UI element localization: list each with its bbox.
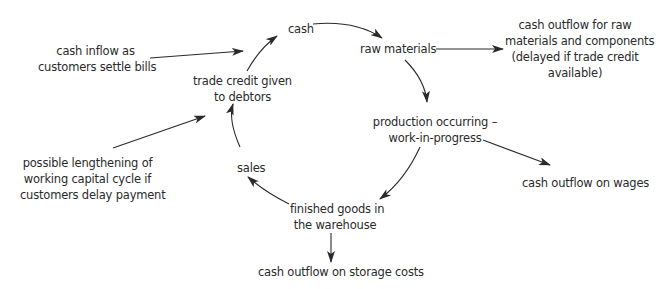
node-outflow-raw: cash outflow for raw materials and compo… <box>505 17 645 81</box>
node-lengthening-line-3: customers delay payment <box>20 187 155 203</box>
arrow-cash-inflow-to-cash <box>150 51 243 58</box>
node-lengthening-line-1: possible lengthening of <box>20 155 155 171</box>
node-outflow-raw-line-3: (delayed if trade credit <box>505 49 645 65</box>
node-cash-inflow-line-2: customers settle bills <box>38 59 153 75</box>
node-lengthening-line-2: working capital cycle if <box>20 171 155 187</box>
arrow-production-to-finished-goods <box>380 147 420 199</box>
node-lengthening: possible lengthening of working capital … <box>20 155 155 203</box>
node-sales: sales <box>237 160 265 176</box>
node-outflow-raw-line-4: available) <box>505 65 645 81</box>
node-production: production occurring – work-in-progress <box>365 114 505 146</box>
arrow-sales-to-trade-credit <box>232 104 240 147</box>
node-cash-inflow: cash inflow as customers settle bills <box>38 43 153 75</box>
node-raw-materials: raw materials <box>360 41 436 57</box>
node-trade-credit-line-1: trade credit given <box>190 73 295 89</box>
node-trade-credit-line-2: to debtors <box>190 89 295 105</box>
arrow-trade-credit-to-cash <box>247 36 277 71</box>
node-trade-credit: trade credit given to debtors <box>190 73 295 105</box>
node-outflow-raw-line-1: cash outflow for raw <box>505 17 645 33</box>
arrow-raw-materials-to-production <box>405 60 427 102</box>
node-production-line-2: work-in-progress <box>365 130 505 146</box>
arrow-cash-to-raw-materials <box>313 23 382 38</box>
arrow-finished-goods-to-sales <box>248 177 289 204</box>
node-finished-goods-line-1: finished goods in <box>290 201 380 217</box>
node-outflow-storage: cash outflow on storage costs <box>258 264 424 280</box>
node-cash: cash <box>288 21 314 37</box>
node-outflow-wages: cash outflow on wages <box>522 175 649 191</box>
node-production-line-1: production occurring – <box>365 114 505 130</box>
node-finished-goods: finished goods in the warehouse <box>290 201 380 233</box>
node-outflow-raw-line-2: materials and components <box>505 33 645 49</box>
node-cash-inflow-line-1: cash inflow as <box>38 43 153 59</box>
node-finished-goods-line-2: the warehouse <box>290 217 380 233</box>
arrow-lengthening-to-trade-credit <box>113 116 205 148</box>
